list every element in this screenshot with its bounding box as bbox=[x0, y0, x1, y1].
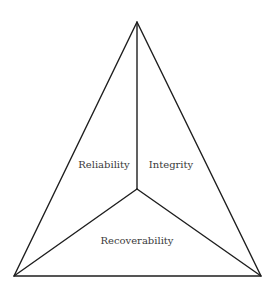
triangle-diagram: Reliability Integrity Recoverability bbox=[0, 0, 274, 291]
label-integrity: Integrity bbox=[149, 159, 194, 170]
divider-center-to-bottom-right bbox=[137, 189, 261, 276]
label-reliability: Reliability bbox=[78, 159, 130, 170]
label-recoverability: Recoverability bbox=[100, 235, 173, 246]
divider-center-to-bottom-left bbox=[14, 189, 137, 276]
